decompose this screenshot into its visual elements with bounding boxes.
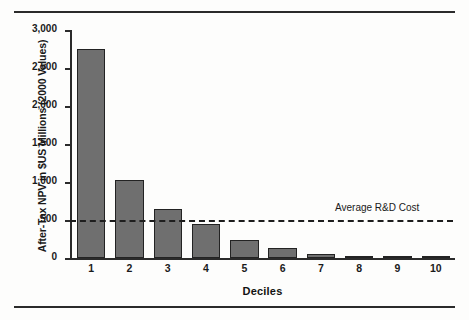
bar-5 (230, 240, 258, 258)
bar-series (72, 30, 455, 258)
x-axis-tick-label-6: 6 (264, 262, 302, 274)
x-axis-tick-label-7: 7 (302, 262, 340, 274)
y-axis-tick-mark (65, 144, 71, 146)
y-axis-tick-label: 1,500 (32, 137, 57, 148)
y-axis-tick-label: 0 (51, 251, 57, 262)
x-axis-tick-label-5: 5 (225, 262, 263, 274)
x-axis-tick-label-4: 4 (187, 262, 225, 274)
x-axis-tick-label-9: 9 (378, 262, 416, 274)
x-axis-tick-label-8: 8 (340, 262, 378, 274)
bar-10 (422, 256, 450, 258)
bar-4 (192, 224, 220, 258)
bar-6 (268, 248, 296, 258)
y-axis-tick-mark (65, 258, 71, 260)
figure-bottom-rule (14, 306, 455, 308)
x-axis-title: Deciles (70, 285, 455, 297)
x-axis-tick-labels: 12345678910 (70, 262, 455, 278)
y-axis-tick-mark (65, 182, 71, 184)
y-axis-tick: 0 (65, 258, 71, 260)
y-axis-tick: 3,000 (65, 30, 71, 32)
y-axis-tick-label: 500 (40, 213, 57, 224)
y-axis-tick-mark (65, 68, 71, 70)
y-axis-tick-label: 2,500 (32, 61, 57, 72)
y-axis-tick: 2,500 (65, 68, 71, 70)
bar-1 (77, 49, 105, 258)
bar-8 (345, 256, 373, 258)
y-axis-tick-label: 1,000 (32, 175, 57, 186)
y-axis-tick-mark (65, 30, 71, 32)
chart-figure: After-Tax NPV in $US Millions (2000 Valu… (0, 0, 469, 320)
x-axis-tick-label-2: 2 (110, 262, 148, 274)
x-axis-tick-label-1: 1 (72, 262, 110, 274)
x-axis-tick-label-3: 3 (149, 262, 187, 274)
y-axis-tick-mark (65, 106, 71, 108)
average-rd-cost-line (70, 220, 453, 222)
bar-2 (115, 180, 143, 258)
y-axis-tick-label: 2,000 (32, 99, 57, 110)
plot-area: 05001,0001,5002,0002,5003,000 Average R&… (70, 30, 455, 258)
bar-9 (383, 256, 411, 258)
bar-7 (307, 254, 335, 258)
y-axis-tick: 1,000 (65, 182, 71, 184)
bar-3 (154, 209, 182, 258)
figure-top-rule (14, 11, 455, 13)
x-axis-line (70, 258, 455, 260)
y-axis-tick-label: 3,000 (32, 23, 57, 34)
y-axis-tick: 1,500 (65, 144, 71, 146)
y-axis-tick: 2,000 (65, 106, 71, 108)
x-axis-tick-label-10: 10 (417, 262, 455, 274)
average-rd-cost-label: Average R&D Cost (335, 202, 419, 213)
